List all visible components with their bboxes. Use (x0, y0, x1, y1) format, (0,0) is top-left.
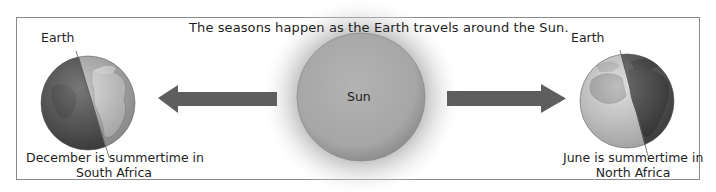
caption-june-line2: North Africa (563, 165, 703, 180)
caption-december-line2: South Africa (26, 165, 202, 180)
earth-left-label: Earth (41, 30, 75, 45)
caption-june: June is summertime in North Africa (563, 150, 703, 180)
caption-december-line1: December is summertime in (26, 150, 202, 165)
diagram-title: The seasons happen as the Earth travels … (189, 20, 569, 35)
earth-right-label: Earth (571, 30, 605, 45)
earth-globe-right (580, 48, 680, 154)
caption-june-line1: June is summertime in (563, 150, 703, 165)
arrow-right-icon (447, 84, 566, 113)
sun-label: Sun (347, 89, 371, 104)
arrow-left-icon (158, 85, 277, 113)
earth-globe-left (40, 50, 135, 156)
caption-december: December is summertime in South Africa (26, 150, 202, 180)
